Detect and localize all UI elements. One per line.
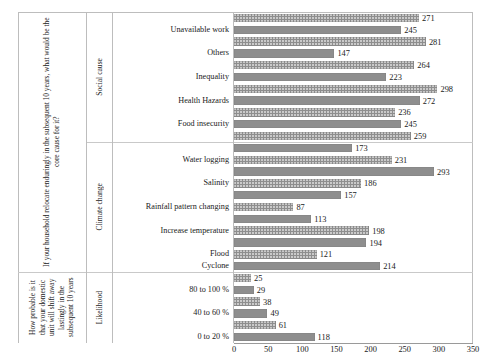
bar-row: 214	[234, 262, 473, 270]
bar	[234, 262, 380, 270]
x-tick-label: 350	[467, 345, 480, 354]
bar	[234, 215, 311, 223]
bar-row: 245	[234, 26, 473, 34]
row-label: Flood	[210, 249, 229, 259]
bar-row: 264	[234, 61, 473, 69]
row-label: Cyclone	[202, 261, 229, 271]
bar	[234, 250, 317, 258]
bar-value-label: 298	[440, 84, 453, 93]
bar	[234, 297, 260, 305]
bar-row: 121	[234, 250, 473, 258]
bar-value-label: 281	[429, 37, 442, 46]
question-column: If your household relocate enduringly in…	[18, 12, 86, 343]
bar-value-label: 264	[417, 61, 430, 70]
section-divider	[86, 142, 473, 143]
row-label: Others	[207, 48, 229, 58]
bar-value-label: 49	[270, 309, 278, 318]
column-divider-1	[112, 12, 113, 343]
x-tick-label: 250	[398, 345, 411, 354]
x-tick-label: 50	[264, 345, 272, 354]
bar-value-label: 113	[314, 214, 326, 223]
bar-row: 87	[234, 203, 473, 211]
bar-row: 245	[234, 120, 473, 128]
bar-value-label: 245	[404, 25, 417, 34]
row-label: Health Hazards	[178, 96, 229, 106]
bar-row: 259	[234, 132, 473, 140]
bar	[234, 85, 437, 93]
bar-row: 157	[234, 191, 473, 199]
bar	[234, 73, 386, 81]
bar-value-label: 147	[337, 49, 350, 58]
bar	[234, 37, 426, 45]
bar-value-label: 198	[372, 226, 385, 235]
bar-value-label: 293	[437, 167, 450, 176]
bar-value-label: 121	[320, 250, 333, 259]
bar-row: 194	[234, 238, 473, 246]
row-label: Unavailable work	[171, 25, 229, 35]
bar	[234, 179, 361, 187]
row-label: Water logging	[183, 155, 229, 165]
row-label: Food insecurity	[178, 119, 229, 129]
bar-value-label: 236	[398, 108, 411, 117]
plot-area: 2712452811472642232982722362452591732312…	[234, 12, 473, 343]
bar	[234, 191, 341, 199]
bar	[234, 309, 267, 317]
x-tick-label: 0	[232, 345, 236, 354]
bar	[234, 26, 401, 34]
bar-row: 223	[234, 73, 473, 81]
bar	[234, 108, 395, 116]
bar-value-label: 259	[414, 132, 427, 141]
bar-row: 281	[234, 37, 473, 45]
bar	[234, 238, 366, 246]
bar	[234, 96, 420, 104]
question-upper-block: If your household relocate enduringly in…	[18, 12, 86, 272]
bar-row: 231	[234, 156, 473, 164]
row-label: Rainfall pattern changing	[146, 202, 229, 212]
column-divider-2	[233, 12, 234, 343]
bar	[234, 49, 334, 57]
bar-value-label: 186	[364, 179, 377, 188]
bar	[234, 132, 411, 140]
bar-row: 186	[234, 179, 473, 187]
bar-row: 25	[234, 274, 473, 282]
bar-row: 113	[234, 215, 473, 223]
bar-value-label: 87	[296, 203, 304, 212]
question-upper-text: If your household relocate enduringly in…	[42, 17, 61, 267]
bar	[234, 286, 254, 294]
bar-row: 147	[234, 49, 473, 57]
bar	[234, 274, 251, 282]
bar-value-label: 271	[422, 13, 435, 22]
bar-value-label: 223	[389, 73, 402, 82]
row-label: 40 to 60 %	[193, 308, 229, 318]
row-label: 80 to 100 %	[189, 285, 229, 295]
group-label-text: Climate change	[95, 183, 104, 230]
bar-row: 29	[234, 286, 473, 294]
bar-row: 49	[234, 309, 473, 317]
bar-row: 38	[234, 297, 473, 305]
bar-value-label: 272	[423, 96, 436, 105]
bar-row: 198	[234, 226, 473, 234]
row-label: 0 to 20 %	[197, 332, 229, 342]
row-label: Salinity	[204, 178, 229, 188]
bar	[234, 144, 352, 152]
group-label-climate: Climate change	[86, 142, 112, 272]
bar-value-label: 118	[318, 333, 330, 342]
bar-value-label: 194	[369, 238, 382, 247]
bar-row: 236	[234, 108, 473, 116]
bar-row: 298	[234, 85, 473, 93]
bar-value-label: 173	[355, 143, 368, 152]
bar-value-label: 29	[257, 285, 265, 294]
column-divider-0	[86, 12, 87, 343]
x-tick-label: 100	[296, 345, 309, 354]
bar-value-label: 61	[279, 321, 287, 330]
question-lower-block: How probable is it that your domestic un…	[18, 272, 86, 343]
group-label-text: Social cause	[95, 58, 104, 96]
group-label-text: Likelihood	[95, 291, 104, 324]
bar	[234, 203, 293, 211]
bar	[234, 156, 392, 164]
bar-row: 272	[234, 96, 473, 104]
x-tick-label: 200	[364, 345, 377, 354]
x-axis-line	[234, 343, 473, 344]
bar-row: 271	[234, 14, 473, 22]
bar-value-label: 157	[344, 191, 357, 200]
